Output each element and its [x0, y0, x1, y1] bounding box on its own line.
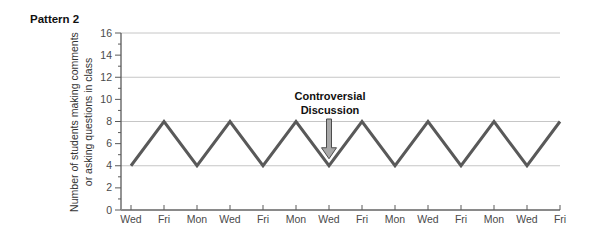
y-axis-label: Number of students making comments or as…	[68, 32, 94, 212]
annotation-arrow-icon	[322, 119, 337, 159]
x-tick-label: Mon	[187, 213, 208, 225]
pattern2-figure: Pattern 2 0246810121416 WedFriMonWedFriM…	[0, 0, 589, 242]
x-tick-label: Wed	[219, 213, 241, 225]
x-tick-label: Mon	[385, 213, 406, 225]
y-axis-ticks: 0246810121416	[100, 27, 121, 216]
y-tick-label: 10	[100, 93, 112, 105]
annotation: Controversial Discussion	[295, 90, 366, 159]
y-tick-label: 16	[100, 27, 112, 39]
annotation-text-line1: Controversial	[295, 90, 366, 102]
y-axis-label-line1: Number of students making comments	[68, 32, 80, 212]
x-tick-label: Wed	[417, 213, 439, 225]
y-tick-label: 14	[100, 49, 112, 61]
y-tick-label: 2	[106, 181, 112, 193]
x-tick-label: Fri	[554, 213, 566, 225]
y-tick-label: 8	[106, 115, 112, 127]
y-tick-label: 6	[106, 137, 112, 149]
x-tick-label: Wed	[120, 213, 142, 225]
y-axis-label-line2: or asking questions in class	[82, 58, 94, 186]
y-tick-label: 0	[106, 204, 112, 216]
x-tick-label: Fri	[158, 213, 170, 225]
x-tick-label: Wed	[516, 213, 538, 225]
x-tick-label: Fri	[455, 213, 467, 225]
y-tick-label: 4	[106, 159, 112, 171]
x-tick-label: Mon	[484, 213, 505, 225]
data-line	[131, 122, 560, 166]
x-tick-label: Fri	[356, 213, 368, 225]
annotation-text-line2: Discussion	[301, 104, 360, 116]
x-tick-label: Mon	[286, 213, 307, 225]
x-axis-ticks: WedFriMonWedFriMonWedFriMonWedFriMonWedF…	[120, 205, 566, 225]
x-tick-label: Wed	[318, 213, 340, 225]
y-tick-label: 12	[100, 71, 112, 83]
line-chart: 0246810121416 WedFriMonWedFriMonWedFriMo…	[0, 0, 589, 242]
x-tick-label: Fri	[257, 213, 269, 225]
